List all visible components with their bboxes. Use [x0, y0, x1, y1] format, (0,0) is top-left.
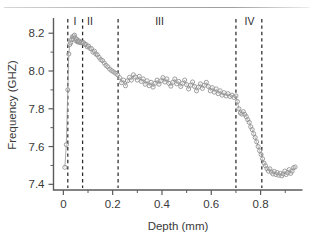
data-point-marker — [185, 83, 189, 87]
x-axis-title: Depth (mm) — [148, 220, 209, 232]
data-point-marker — [67, 52, 71, 56]
data-point-marker — [183, 78, 187, 82]
y-tick-label: 7.8 — [29, 103, 45, 115]
data-point-marker — [161, 76, 165, 80]
data-point-marker — [63, 165, 67, 169]
frequency-vs-depth-chart: 00.20.40.60.87.47.67.88.08.2IIIIIIIVDept… — [0, 0, 313, 240]
region-label-iii: III — [155, 15, 164, 27]
region-label-iv: IV — [245, 15, 255, 27]
data-point-marker — [255, 140, 259, 144]
data-point-marker — [121, 78, 125, 82]
data-point-marker — [210, 86, 214, 90]
scan-artifact-line — [4, 7, 309, 8]
y-tick-label: 8.2 — [29, 27, 45, 39]
data-point-marker — [214, 87, 218, 91]
data-point-marker — [234, 94, 238, 98]
data-point-marker — [191, 80, 195, 84]
x-tick-label: 0.2 — [105, 198, 121, 210]
y-axis-title: Frequency (GHZ) — [6, 60, 18, 150]
y-tick-label: 7.4 — [29, 178, 46, 190]
data-point-marker — [261, 157, 265, 161]
data-point-marker — [145, 79, 149, 83]
data-point-marker — [253, 135, 257, 139]
data-point-marker — [155, 78, 159, 82]
data-point-marker — [235, 100, 239, 104]
data-point-marker — [137, 74, 141, 78]
data-point-marker — [256, 145, 260, 149]
data-point-marker — [192, 84, 196, 88]
data-point-marker — [247, 120, 251, 124]
data-point-marker — [129, 78, 133, 82]
data-point-marker — [173, 77, 177, 81]
data-point-marker — [259, 152, 263, 156]
data-point-marker — [64, 143, 68, 147]
data-point-marker — [206, 84, 210, 88]
data-point-marker — [123, 84, 127, 88]
y-tick-label: 7.6 — [29, 141, 45, 153]
x-tick-label: 0.4 — [154, 198, 171, 210]
data-point-marker — [293, 165, 297, 169]
data-point-marker — [177, 79, 181, 83]
region-label-ii: II — [87, 15, 93, 27]
data-point-marker — [198, 82, 202, 86]
data-point-marker — [250, 128, 254, 132]
data-point-marker — [237, 107, 241, 111]
data-point-marker — [204, 80, 208, 84]
data-point-marker — [218, 89, 222, 93]
data-point-marker — [118, 76, 122, 80]
data-point-marker — [149, 80, 153, 84]
x-tick-label: 0.6 — [203, 198, 219, 210]
data-point-marker — [141, 77, 145, 81]
y-tick-label: 8.0 — [29, 65, 45, 77]
data-point-marker — [165, 77, 169, 81]
x-tick-label: 0 — [60, 198, 66, 210]
region-label-i: I — [73, 15, 76, 27]
figure-panel: 00.20.40.60.87.47.67.88.08.2IIIIIIIVDept… — [0, 0, 313, 240]
data-point-marker — [66, 88, 70, 92]
x-tick-label: 0.8 — [253, 198, 269, 210]
